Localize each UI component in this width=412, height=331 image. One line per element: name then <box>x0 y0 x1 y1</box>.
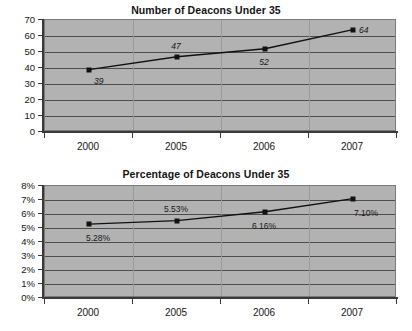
x-axis-label: 2007 <box>341 141 363 152</box>
gridline <box>45 52 395 53</box>
y-axis-tick <box>38 131 43 132</box>
chart-number-of-deacons: Number of Deacons Under 35 0102030405060… <box>0 0 412 165</box>
category-separator <box>221 186 222 296</box>
x-axis-tick <box>132 299 133 304</box>
category-separator <box>221 20 222 130</box>
y-axis-label: 3% <box>21 250 35 261</box>
data-point-marker <box>87 222 92 227</box>
y-axis-label: 0 <box>30 126 35 137</box>
y-axis-label: 8% <box>21 180 35 191</box>
y-axis-label: 1% <box>21 278 35 289</box>
y-axis-tick <box>38 255 43 256</box>
x-axis-tick <box>396 299 397 304</box>
y-axis-line <box>42 185 44 299</box>
x-axis-tick <box>220 299 221 304</box>
x-axis-label: 2006 <box>253 141 275 152</box>
data-point-marker <box>351 27 356 32</box>
data-point-marker <box>263 209 268 214</box>
chart-title-percentage: Percentage of Deacons Under 35 <box>0 168 412 180</box>
gridline <box>45 36 395 37</box>
y-axis-tick <box>38 67 43 68</box>
data-point-label: 52 <box>259 57 268 67</box>
data-point-label: 6.16% <box>252 221 276 231</box>
category-separator <box>309 186 310 296</box>
x-axis-label: 2000 <box>77 307 99 318</box>
y-axis-label: 40 <box>24 62 35 73</box>
data-point-label: 5.53% <box>164 204 188 214</box>
data-point-label: 47 <box>171 41 180 51</box>
y-axis-tick <box>38 213 43 214</box>
data-point-label: 39 <box>94 76 103 86</box>
y-axis-label: 70 <box>24 14 35 25</box>
gridline <box>45 200 395 201</box>
data-point-marker <box>263 46 268 51</box>
y-axis-tick <box>38 199 43 200</box>
data-point-label: 7.10% <box>354 208 378 218</box>
chart-title-count: Number of Deacons Under 35 <box>0 4 412 16</box>
y-axis-label: 60 <box>24 30 35 41</box>
x-axis-label: 2005 <box>165 307 187 318</box>
y-axis-label: 4% <box>21 236 35 247</box>
y-axis-label: 2% <box>21 264 35 275</box>
x-axis-tick <box>396 133 397 138</box>
x-axis-tick <box>308 299 309 304</box>
y-axis-tick <box>38 83 43 84</box>
y-axis-tick <box>38 51 43 52</box>
y-axis-tick <box>38 185 43 186</box>
category-separator <box>133 186 134 296</box>
gridline <box>45 214 395 215</box>
y-axis-tick <box>38 19 43 20</box>
chart-percentage-of-deacons: Percentage of Deacons Under 35 0%1%2%3%4… <box>0 165 412 331</box>
data-point-marker <box>175 218 180 223</box>
category-separator <box>133 20 134 130</box>
y-axis-label: 6% <box>21 208 35 219</box>
y-axis-tick <box>38 115 43 116</box>
gridline <box>45 270 395 271</box>
x-axis-tick <box>308 133 309 138</box>
y-axis-tick <box>38 283 43 284</box>
gridline <box>45 100 395 101</box>
gridline <box>45 116 395 117</box>
y-axis-label: 5% <box>21 222 35 233</box>
data-point-label: 64 <box>359 25 368 35</box>
y-axis-label: 0% <box>21 292 35 303</box>
data-point-marker <box>87 67 92 72</box>
gridline <box>45 228 395 229</box>
x-axis-tick <box>220 133 221 138</box>
x-axis-label: 2005 <box>165 141 187 152</box>
y-axis-label: 20 <box>24 94 35 105</box>
x-axis-tick <box>132 133 133 138</box>
data-point-label: 5.28% <box>86 233 110 243</box>
y-axis-tick <box>38 241 43 242</box>
y-axis-tick <box>38 35 43 36</box>
gridline <box>45 284 395 285</box>
x-axis-tick <box>44 133 45 138</box>
y-axis-label: 10 <box>24 110 35 121</box>
gridline <box>45 68 395 69</box>
x-axis-label: 2007 <box>341 307 363 318</box>
gridline <box>45 256 395 257</box>
data-point-marker <box>175 54 180 59</box>
y-axis-label: 30 <box>24 78 35 89</box>
y-axis-label: 7% <box>21 194 35 205</box>
x-axis-label: 2006 <box>253 307 275 318</box>
category-separator <box>309 20 310 130</box>
y-axis-label: 50 <box>24 46 35 57</box>
x-axis-label: 2000 <box>77 141 99 152</box>
y-axis-tick <box>38 269 43 270</box>
y-axis-tick <box>38 227 43 228</box>
y-axis-tick <box>38 297 43 298</box>
data-point-marker <box>351 196 356 201</box>
y-axis-tick <box>38 99 43 100</box>
x-axis-tick <box>44 299 45 304</box>
